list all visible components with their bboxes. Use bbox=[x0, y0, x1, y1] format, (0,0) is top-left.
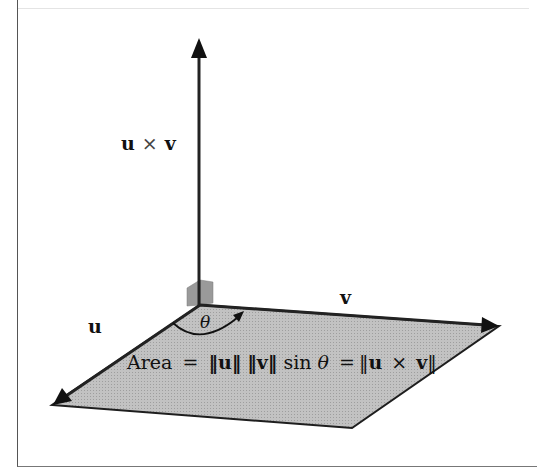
norm-v: ‖v‖ bbox=[247, 351, 277, 373]
theta-label: θ bbox=[200, 314, 210, 331]
formula-v: v bbox=[416, 351, 427, 373]
area-formula: Area = ‖u‖ ‖v‖ sin θ =‖u × v‖ bbox=[127, 353, 437, 372]
cross-product-label: u×v bbox=[121, 134, 176, 153]
theta-symbol: θ bbox=[318, 351, 329, 373]
cross-product-arrowhead-icon bbox=[191, 38, 207, 58]
area-word: Area bbox=[127, 351, 172, 373]
cross-times-symbol: × bbox=[142, 132, 158, 154]
formula-times: × bbox=[391, 351, 407, 373]
equals-sign: = bbox=[182, 351, 198, 373]
cross-v-text: v bbox=[165, 132, 176, 154]
v-vector-label: v bbox=[340, 288, 351, 307]
norm-close: ‖ bbox=[427, 351, 437, 373]
norm-open: ‖ bbox=[359, 351, 369, 373]
cross-u-text: u bbox=[121, 132, 135, 154]
equals-sign-2: = bbox=[339, 351, 355, 373]
u-vector-label: u bbox=[88, 317, 102, 336]
sin-text: sin bbox=[283, 351, 311, 373]
norm-u: ‖u‖ bbox=[208, 351, 241, 373]
formula-u: u bbox=[368, 351, 382, 373]
